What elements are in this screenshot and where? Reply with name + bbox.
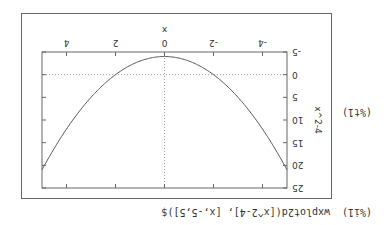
x-tick-label: 4	[63, 38, 69, 48]
x-tick-label: -2	[209, 38, 218, 48]
y-tick-label: 5	[292, 92, 298, 102]
x-tick-label: -4	[258, 38, 267, 48]
y-tick-label: 15	[292, 138, 303, 148]
y-tick-label: -5	[292, 47, 301, 57]
plot-area-frame	[42, 52, 287, 188]
x-tick-label: 0	[161, 38, 167, 48]
x-axis-label: x	[161, 25, 167, 35]
y-tick-label: 20	[292, 160, 304, 170]
x-tick-label: 2	[113, 38, 119, 48]
y-tick-label: 25	[292, 183, 303, 193]
plot: -4-2024-50510152025xx^2-4	[0, 0, 386, 225]
y-tick-label: 0	[292, 70, 298, 80]
y-axis-label: x^2-4	[313, 106, 323, 134]
wxmaxima-worksheet: (%i1) wxplot2d([x^2-4], [x,-5,5])$ (%t1)…	[0, 0, 386, 225]
y-tick-label: 10	[292, 115, 304, 125]
